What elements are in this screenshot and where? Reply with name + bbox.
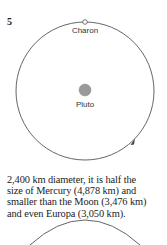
pluto-body — [79, 84, 91, 96]
next-figure-orbit — [30, 220, 140, 245]
paragraph-line: and even Europa (3,050 km). — [7, 208, 167, 219]
body-paragraph: 2,400 km diameter, it is half the size o… — [7, 174, 167, 219]
paragraph-line: smaller than the Moon (3,476 km) — [7, 196, 167, 207]
charon-marker — [83, 20, 88, 25]
pluto-label: Pluto — [76, 100, 95, 109]
paragraph-line: 2,400 km diameter, it is half the — [7, 174, 167, 185]
charon-label: Charon — [72, 26, 98, 35]
paragraph-line: size of Mercury (4,878 km) and — [7, 185, 167, 196]
